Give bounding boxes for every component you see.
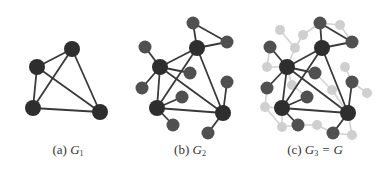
- small-node: [292, 119, 305, 132]
- small-node: [176, 91, 189, 104]
- nodes: [25, 17, 359, 140]
- small-node: [327, 127, 340, 140]
- small-node: [221, 76, 234, 89]
- faded-node: [298, 30, 308, 40]
- small-node: [261, 82, 274, 95]
- big-node: [149, 100, 165, 116]
- small-node: [314, 17, 327, 30]
- big-node: [279, 59, 295, 75]
- big-node: [274, 100, 290, 116]
- caption-c: (c) G3 = G: [287, 142, 343, 158]
- small-node: [136, 82, 149, 95]
- big-node: [92, 104, 108, 120]
- small-node: [346, 76, 359, 89]
- small-node: [221, 36, 234, 49]
- faded-node: [362, 88, 372, 98]
- faded-node: [290, 43, 300, 53]
- faded-node: [260, 102, 270, 112]
- faded-node: [275, 25, 285, 35]
- faded-node: [347, 130, 357, 140]
- big-node: [29, 59, 45, 75]
- caption-a: (a) G1: [52, 142, 83, 158]
- edge: [282, 108, 348, 113]
- faded-node: [277, 122, 287, 132]
- big-node: [189, 40, 205, 56]
- small-node: [264, 41, 277, 54]
- faded-node: [340, 62, 350, 72]
- big-node: [215, 105, 231, 121]
- small-node: [187, 17, 200, 30]
- caption-b: (b) G2: [174, 142, 206, 158]
- small-node: [346, 36, 359, 49]
- big-node: [314, 40, 330, 56]
- big-node: [340, 105, 356, 121]
- small-node: [202, 127, 215, 140]
- big-node: [25, 100, 41, 116]
- faded-node: [262, 62, 272, 72]
- faded-node: [312, 120, 322, 130]
- big-node: [152, 59, 168, 75]
- faded-node: [335, 20, 345, 30]
- small-node: [184, 67, 197, 80]
- faded-node: [327, 85, 337, 95]
- big-node: [64, 41, 80, 57]
- edge: [157, 108, 223, 113]
- small-node: [301, 91, 314, 104]
- small-node: [139, 41, 152, 54]
- edge: [33, 108, 100, 112]
- small-node: [309, 67, 322, 80]
- small-node: [167, 119, 180, 132]
